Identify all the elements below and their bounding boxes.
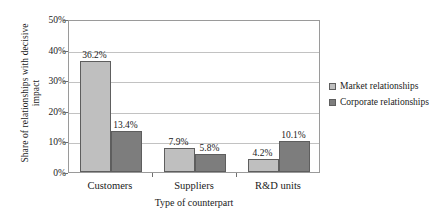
y-axis-title: Share of relationships with decisive imp… xyxy=(15,0,47,188)
x-axis-tick-mark xyxy=(236,173,237,177)
y-axis-tick-label: 50% xyxy=(32,15,66,25)
bar-value-label: 13.4% xyxy=(104,120,147,130)
chart-legend: Market relationshipsCorporate relationsh… xyxy=(329,81,429,108)
x-axis-tick-mark xyxy=(152,173,153,177)
legend-item: Market relationships xyxy=(329,81,429,92)
bar-value-label: 10.1% xyxy=(272,130,315,140)
bar-chart: Share of relationships with decisive imp… xyxy=(0,0,442,218)
x-axis-category-label: R&D units xyxy=(236,179,320,192)
y-axis-tick-label: 40% xyxy=(32,46,66,56)
bar xyxy=(111,131,142,172)
bar-value-label: 5.8% xyxy=(188,143,231,153)
legend-item: Corporate relationships xyxy=(329,97,429,108)
legend-item-label: Market relationships xyxy=(340,81,418,92)
y-axis-tick-label: 30% xyxy=(32,76,66,86)
y-axis-tick-label: 0% xyxy=(32,168,66,178)
legend-item-label: Corporate relationships xyxy=(340,97,429,108)
bar xyxy=(195,154,226,172)
bar xyxy=(80,61,111,172)
x-axis-title: Type of counterpart xyxy=(68,197,320,209)
bar xyxy=(248,159,279,172)
y-axis-tick-mark xyxy=(63,173,68,174)
legend-swatch-icon xyxy=(329,83,336,90)
x-axis-category-label: Suppliers xyxy=(152,179,236,192)
bar-value-label: 36.2% xyxy=(73,50,116,60)
y-axis-tick-label: 20% xyxy=(32,107,66,117)
bar-value-label: 4.2% xyxy=(241,148,284,158)
y-axis-title-line-1: Share of relationships with decisive xyxy=(20,23,32,162)
y-axis-tick-label: 10% xyxy=(32,137,66,147)
legend-swatch-icon xyxy=(329,99,336,106)
x-axis-category-label: Customers xyxy=(68,179,152,192)
